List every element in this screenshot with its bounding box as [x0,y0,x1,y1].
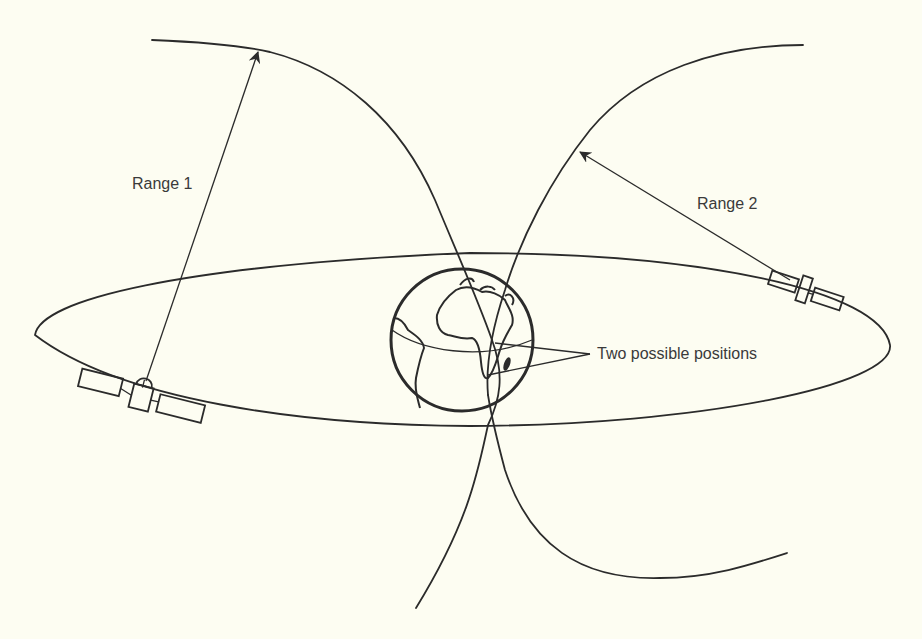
two-possible-positions-label: Two possible positions [597,346,757,362]
satellite-ranging-diagram: Range 1 Range 2 Two possible positions [0,0,922,639]
earth-globe-icon [391,269,533,411]
range-sphere-2-arc [487,45,803,578]
range-1-arrow [146,52,258,381]
satellite-1-icon [76,363,208,425]
positions-pointer-lines [488,343,590,375]
range-2-arrow [580,152,790,280]
range-2-label: Range 2 [697,196,758,212]
orbit-ellipse [35,253,890,426]
range-sphere-1-arc [152,40,500,608]
diagram-canvas [0,0,922,639]
range-1-label: Range 1 [132,176,193,192]
